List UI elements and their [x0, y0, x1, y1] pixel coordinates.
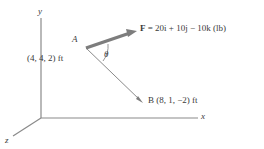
y-axis-label: y — [38, 7, 42, 16]
point-a-coordinates: (4, 4, 2) ft — [27, 54, 63, 63]
angle-theta-label: θ — [104, 50, 108, 59]
force-vector-equation: F = 20i + 10j − 10k (lb) — [140, 24, 226, 33]
z-axis-line — [13, 118, 41, 136]
z-axis-label: z — [5, 136, 9, 145]
force-vector-arrowhead — [126, 29, 137, 37]
point-b-label: B (8, 1, −2) ft — [148, 96, 198, 105]
point-a-label: A — [72, 35, 78, 44]
force-components: = 20i + 10j − 10k (lb) — [146, 23, 226, 33]
x-axis-label: x — [201, 112, 205, 121]
position-vector-ab — [86, 48, 141, 101]
vector-diagram: y x z A (4, 4, 2) ft θ B (8, 1, −2) ft F… — [0, 0, 264, 149]
